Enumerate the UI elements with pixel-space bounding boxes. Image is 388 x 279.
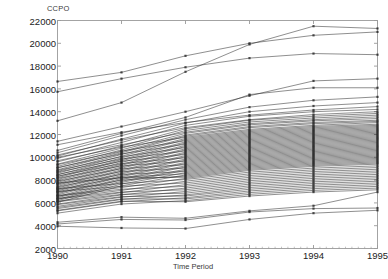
x-tick-label: 1991 <box>111 250 132 261</box>
y-tick-label: 22000 <box>12 15 56 26</box>
y-tick-label: 18000 <box>12 61 56 72</box>
x-tick-label: 1990 <box>47 250 68 261</box>
x-tick-label: 1994 <box>303 250 324 261</box>
y-tick-label: 10000 <box>12 152 56 163</box>
x-tick-label: 1993 <box>239 250 260 261</box>
y-tick-label: 6000 <box>12 197 56 208</box>
y-tick-label: 16000 <box>12 83 56 94</box>
y-axis-tick-labels: 2000400060008000100001200014000160001800… <box>8 0 56 279</box>
y-tick-label: 12000 <box>12 129 56 140</box>
series-lines <box>58 26 378 228</box>
y-tick-label: 8000 <box>12 175 56 186</box>
y-tick-label: 20000 <box>12 38 56 49</box>
x-axis-label: Time Period <box>0 262 386 271</box>
y-tick-label: 4000 <box>12 220 56 231</box>
y-tick-label: 14000 <box>12 106 56 117</box>
x-tick-label: 1995 <box>367 250 388 261</box>
x-tick-label: 1992 <box>175 250 196 261</box>
